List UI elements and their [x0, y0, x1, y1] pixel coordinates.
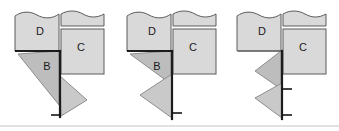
panel-1: [15, 11, 104, 117]
panel-2-label-d: D: [148, 25, 156, 37]
panel-2-label-b: B: [153, 60, 160, 72]
panel-1-label-b: B: [43, 60, 50, 72]
panel-3-label-c: C: [299, 41, 307, 53]
panel-3-upper-flap-shape: [255, 51, 281, 89]
panel-1-label-c: C: [77, 41, 85, 53]
panel-2-lower-flap-shape: [140, 74, 172, 118]
panel-2: [127, 11, 216, 119]
panel-1-label-d: D: [36, 25, 44, 37]
panel-3: [237, 11, 326, 119]
folding-diagram-svg: D C B D C B D C: [0, 0, 339, 131]
panel-3-label-d: D: [258, 25, 266, 37]
panel-2-label-c: C: [189, 41, 197, 53]
figure-root: D C B D C B D C: [0, 0, 339, 131]
